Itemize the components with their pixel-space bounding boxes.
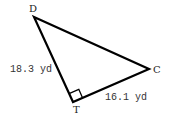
- triangle-diagram: D C T 18.3 yd 16.1 yd: [0, 0, 174, 114]
- vertex-label-d: D: [29, 3, 37, 14]
- vertex-label-c: C: [153, 64, 161, 75]
- side-label-tc: 16.1 yd: [105, 92, 147, 103]
- side-label-dt: 18.3 yd: [10, 64, 52, 75]
- vertex-label-t: T: [73, 104, 80, 114]
- triangle-dtc: [34, 17, 149, 102]
